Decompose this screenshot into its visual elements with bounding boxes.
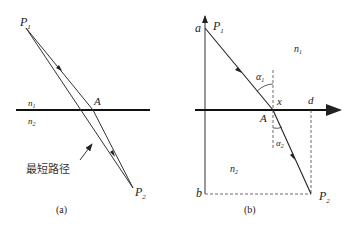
label-d: d — [308, 94, 314, 106]
refraction-diagram: P1 A n1 n2 最短路径 P2 (a) a P1 n1 α1 x d A — [0, 0, 349, 228]
label-a-point: a — [195, 21, 201, 35]
label-x: x — [276, 95, 282, 107]
caption-a: (a) — [56, 204, 67, 216]
angle-arc-alpha1 — [257, 84, 273, 91]
svg-text:P2: P2 — [134, 185, 146, 201]
svg-text:P1: P1 — [212, 19, 224, 35]
caption-b: (b) — [244, 204, 256, 216]
svg-text:α2: α2 — [276, 138, 284, 149]
label-a-b: A — [259, 112, 267, 124]
panel-a: P1 A n1 n2 最短路径 P2 (a) — [16, 15, 150, 216]
pointer-arrow — [80, 144, 92, 160]
refracted-path-lower — [93, 110, 133, 188]
svg-text:n2: n2 — [230, 163, 238, 175]
svg-text:n2: n2 — [28, 116, 36, 127]
svg-text:n1: n1 — [28, 98, 36, 109]
label-a-a: A — [93, 95, 101, 107]
arrow-icon — [235, 67, 242, 73]
panel-b: a P1 n1 α1 x d A α2 n2 b P2 (b) — [195, 16, 340, 216]
svg-text:P1: P1 — [19, 15, 31, 31]
svg-text:n1: n1 — [294, 43, 302, 55]
svg-text:P2: P2 — [318, 189, 330, 205]
label-shortest-path: 最短路径 — [26, 162, 70, 176]
svg-text:α1: α1 — [256, 71, 264, 83]
refracted-ray — [273, 110, 311, 194]
label-b-point: b — [196, 186, 202, 200]
